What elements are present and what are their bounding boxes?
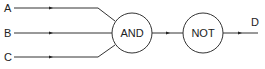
and-gate-label: AND <box>120 27 143 39</box>
wire-c <box>14 45 115 59</box>
not-gate: NOT <box>183 13 223 53</box>
not-gate-label: NOT <box>191 27 215 39</box>
arrow-icon <box>238 32 242 35</box>
wire-a <box>14 7 115 22</box>
arrow-icon <box>49 56 53 59</box>
arrow-icon <box>166 32 170 35</box>
input-label-b: B <box>4 27 11 39</box>
wire-output <box>223 32 258 35</box>
wire-b <box>14 32 112 35</box>
and-gate: AND <box>112 13 152 53</box>
logic-diagram: A B C AND NOT D <box>0 0 265 69</box>
output-label-d: D <box>251 16 259 28</box>
arrow-icon <box>49 7 53 10</box>
input-label-c: C <box>4 51 12 63</box>
arrow-icon <box>49 32 53 35</box>
wire-and-not <box>152 32 183 35</box>
input-label-a: A <box>4 2 12 14</box>
